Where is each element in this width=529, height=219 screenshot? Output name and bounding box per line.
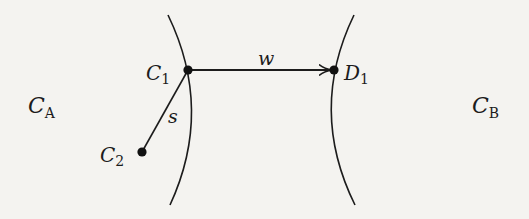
boundary-curve-right [331, 15, 355, 205]
node-c1-label: C1 [146, 61, 170, 87]
edge-w-label: w [258, 47, 274, 69]
node-d1-label: D1 [343, 61, 369, 87]
node-c2-dot [137, 147, 146, 156]
edge-s-label: s [168, 105, 178, 127]
node-d1-dot [329, 65, 338, 74]
node-c1-dot [183, 65, 192, 74]
diagram-canvas: C1 D1 C2 w s CA CB [0, 0, 529, 219]
region-cb-label: CB [472, 93, 499, 121]
node-c2-label: C2 [100, 143, 124, 169]
region-ca-label: CA [28, 93, 56, 121]
